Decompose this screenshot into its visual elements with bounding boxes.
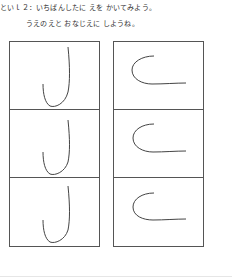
question-subtitle: うえのえと おなじえに しようね。 xyxy=(26,18,139,28)
c-curve-drawing-icon xyxy=(114,110,203,178)
question-title: といｌ２：いちばんしたに えを かいてみよう。 xyxy=(0,2,156,12)
page-divider xyxy=(0,276,232,277)
j-hook-drawing-icon xyxy=(10,42,99,110)
drawing-target-cell[interactable] xyxy=(114,178,203,246)
c-curve-drawing-icon xyxy=(114,42,203,110)
j-hook-drawing-icon xyxy=(10,110,99,178)
left-drawing-column xyxy=(9,41,100,247)
drawing-target-cell[interactable] xyxy=(10,178,99,246)
j-hook-drawing-icon xyxy=(10,178,99,246)
drawing-cell xyxy=(10,110,99,178)
drawing-cell xyxy=(114,110,203,178)
c-curve-drawing-icon xyxy=(114,178,203,246)
drawing-cell xyxy=(10,42,99,110)
drawing-cell xyxy=(114,42,203,110)
right-drawing-column xyxy=(113,41,204,247)
